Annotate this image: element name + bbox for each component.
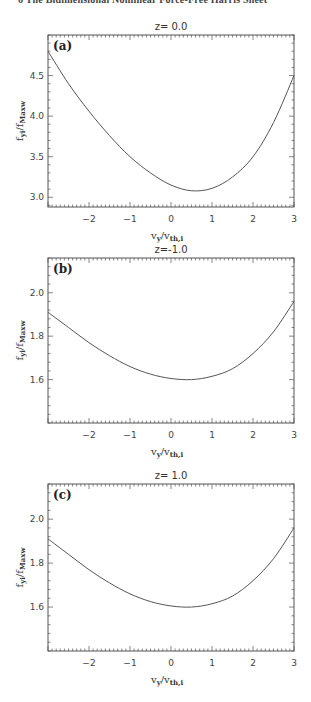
y-tick-label: 4.5 xyxy=(30,71,44,81)
x-tick-label: 1 xyxy=(209,214,215,224)
x-tick-label: −2 xyxy=(82,430,95,440)
plot-frame xyxy=(48,35,294,207)
x-tick-label: 3 xyxy=(291,658,297,668)
y-tick-label: 4.0 xyxy=(30,111,45,121)
x-tick-label: 0 xyxy=(168,658,174,668)
x-tick-label: 1 xyxy=(209,430,215,440)
panel-label: (a) xyxy=(53,39,72,53)
plot-frame xyxy=(48,258,294,423)
y-tick-label: 2.0 xyxy=(30,514,45,524)
y-tick-label: 1.6 xyxy=(30,602,45,612)
x-tick-label: 1 xyxy=(209,658,215,668)
data-curve xyxy=(48,528,294,607)
panel-title: z=-1.0 xyxy=(154,244,187,255)
x-axis-label: vy/vth,i xyxy=(150,674,184,687)
x-tick-label: 2 xyxy=(250,214,256,224)
y-axis-label: fyi/fMaxw xyxy=(14,547,27,588)
data-curve xyxy=(48,301,294,379)
x-tick-label: −1 xyxy=(123,214,136,224)
x-tick-label: −2 xyxy=(82,214,95,224)
x-axis-label: vy/vth,i xyxy=(150,446,184,459)
x-tick-label: 3 xyxy=(291,214,297,224)
y-axis-label: fyi/fMaxw xyxy=(14,320,27,361)
x-tick-label: −1 xyxy=(123,430,136,440)
x-tick-label: 2 xyxy=(250,658,256,668)
panel-title: z= 1.0 xyxy=(155,470,188,481)
y-tick-label: 1.8 xyxy=(30,331,45,341)
panel-title: z= 0.0 xyxy=(155,21,188,32)
x-tick-label: 0 xyxy=(168,430,174,440)
x-tick-label: −2 xyxy=(82,658,95,668)
x-axis-label: vy/vth,i xyxy=(150,230,184,243)
y-tick-label: 1.6 xyxy=(30,375,45,385)
x-tick-label: −1 xyxy=(123,658,136,668)
y-tick-label: 2.0 xyxy=(30,288,45,298)
chart-panel-b: −2−101231.61.82.0z=-1.0(b)vy/vth,ifyi/fM… xyxy=(14,244,297,459)
plot-frame xyxy=(48,484,294,651)
figure: −2−101233.03.54.04.5z= 0.0(a)vy/vth,ifyi… xyxy=(0,0,311,702)
x-tick-label: 2 xyxy=(250,430,256,440)
panel-label: (b) xyxy=(53,262,73,276)
chart-panel-c: −2−101231.61.82.0z= 1.0(c)vy/vth,ifyi/fM… xyxy=(14,470,297,687)
panel-label: (c) xyxy=(53,488,72,502)
y-tick-label: 1.8 xyxy=(30,558,45,568)
x-tick-label: 3 xyxy=(291,430,297,440)
x-tick-label: 0 xyxy=(168,214,174,224)
y-axis-label: fyi/fMaxw xyxy=(14,100,27,141)
y-tick-label: 3.0 xyxy=(30,192,45,202)
data-curve xyxy=(48,51,294,191)
y-tick-label: 3.5 xyxy=(30,152,44,162)
chart-panel-a: −2−101233.03.54.04.5z= 0.0(a)vy/vth,ifyi… xyxy=(14,21,297,243)
